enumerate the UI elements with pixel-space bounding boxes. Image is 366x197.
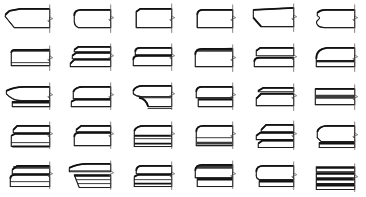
profile-wide-splayed-cornice-with-soffit[interactable] [0,79,61,118]
profile-rounded-crown-with-base-step[interactable] [244,158,305,197]
profile-angled-splay-cavetto[interactable] [244,0,305,39]
profile-double-stepped-torus[interactable] [122,39,183,78]
profile-stacked-quadruple-reed-band[interactable] [305,158,366,197]
profile-quarter-round-bullnose[interactable] [61,0,122,39]
profile-rounded-nose-with-fillet[interactable] [183,0,244,39]
profile-heavy-crown-with-base-step[interactable] [183,158,244,197]
molding-profile-plate [0,0,366,197]
profile-z-stepped-double-band[interactable] [244,118,305,157]
profile-stepped-cornice-band[interactable] [61,79,122,118]
profile-stepped-band-with-base-shadow[interactable] [0,118,61,157]
profile-splayed-crown-with-reeds[interactable] [61,158,122,197]
profile-shaded-crown-with-reeds[interactable] [0,158,61,197]
profile-heavy-shaded-bullnose[interactable] [183,39,244,78]
profile-banded-cavetto-with-fillet[interactable] [244,39,305,78]
profile-angled-ovolo-with-base[interactable] [305,118,366,157]
profile-flat-slab-with-shadow-line[interactable] [305,79,366,118]
profile-deep-cove-cornice-drop[interactable] [122,79,183,118]
profile-short-bullnose-with-drop-fillet[interactable] [183,79,244,118]
profile-grid [0,0,366,197]
profile-flat-band-with-shaded-top[interactable] [0,39,61,78]
profile-bullnose-with-under-shadow[interactable] [183,118,244,157]
profile-narrow-stepped-ovolo[interactable] [61,118,122,157]
profile-chamfered-splay-bullnose[interactable] [0,0,61,39]
profile-multi-reeded-splay[interactable] [122,118,183,157]
profile-stepped-crown-with-fillets[interactable] [122,158,183,197]
profile-ogee-double-curve-edge[interactable] [305,0,366,39]
profile-double-fillet-slab[interactable] [244,79,305,118]
profile-square-edge-with-top-step[interactable] [122,0,183,39]
profile-rounded-cove-with-lower-band[interactable] [305,39,366,78]
profile-triple-reeded-band[interactable] [61,39,122,78]
